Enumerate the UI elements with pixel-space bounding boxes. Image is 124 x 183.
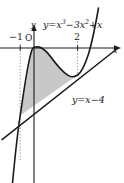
- curve-eq-mid: −3x: [66, 19, 85, 30]
- shaded-region-precise: [20, 47, 77, 116]
- curve-equation-label: y=x3−3x2+x: [43, 19, 102, 30]
- x-tick-label-two: 2: [74, 32, 80, 42]
- x-axis-label: x: [113, 47, 118, 55]
- y-axis-label: y: [31, 21, 36, 29]
- curve-eq-prefix: y=x: [43, 19, 62, 30]
- origin-label: O: [25, 34, 32, 43]
- line-equation-label: y=x−4: [72, 95, 105, 105]
- curve-eq-suffix: +x: [89, 19, 102, 30]
- graph-figure: y=x3−3x2+x y=x−4 y x O −1 2: [0, 0, 124, 183]
- x-tick-label-neg-one: −1: [9, 32, 23, 42]
